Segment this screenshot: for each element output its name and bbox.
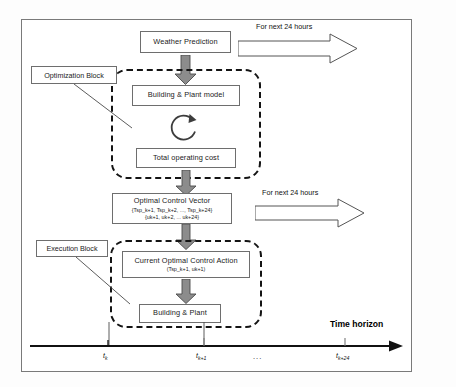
node-building-plant-model-label: Building & Plant model	[148, 91, 225, 100]
node-current-action-label: Current Optimal Control Action	[134, 257, 237, 266]
node-total-operating-cost: Total operating cost	[136, 148, 236, 168]
axis-tick-tk24-sub: k+24	[338, 355, 349, 361]
horizon-mid-label: For next 24 hours	[262, 188, 318, 197]
axis-title-time-horizon: Time horizon	[330, 319, 383, 329]
node-optimal-control-vector-setpoints: {Tsp_k+1, Tsp_k+2, ..., Tsp_k+24}	[132, 207, 213, 213]
axis-tick-label-tk1: tk+1	[196, 352, 206, 361]
node-weather-prediction: Weather Prediction	[140, 31, 231, 53]
horizon-top-label: For next 24 hours	[256, 22, 312, 31]
node-optimal-control-vector: Optimal Control Vector {Tsp_k+1, Tsp_k+2…	[112, 193, 232, 224]
node-building-plant: Building & Plant	[139, 304, 221, 323]
node-building-plant-label: Building & Plant	[153, 309, 207, 318]
axis-ellipsis: ...	[253, 352, 262, 361]
circular-iteration-arrow-icon	[167, 112, 205, 149]
axis-tick-tk-sub: k	[105, 355, 108, 361]
node-total-operating-cost-label: Total operating cost	[153, 154, 219, 163]
diagram-canvas: Weather Prediction For next 24 hours Opt…	[0, 0, 456, 387]
callout-execution-block-label: Execution Block	[46, 244, 97, 253]
callout-execution-block: Execution Block	[36, 240, 108, 257]
right-outline-arrow-mid	[255, 198, 365, 228]
node-current-action-values: (Tsp_k+1, uk+1)	[167, 266, 206, 272]
node-optimal-control-vector-label: Optimal Control Vector	[134, 197, 211, 206]
node-optimal-control-vector-inputs: {uk+1, uk+2, ... uk+24}	[145, 214, 199, 220]
right-outline-arrow-top	[238, 33, 358, 64]
node-building-plant-model: Building & Plant model	[132, 85, 240, 106]
node-current-optimal-control-action: Current Optimal Control Action (Tsp_k+1,…	[122, 251, 250, 278]
node-weather-prediction-label: Weather Prediction	[153, 38, 218, 47]
axis-tick-label-tk24: tk+24	[336, 352, 349, 361]
callout-optimization-block: Optimization Block	[31, 66, 117, 84]
axis-tick-tk1-sub: k+1	[198, 355, 207, 361]
callout-optimization-block-label: Optimization Block	[44, 71, 104, 80]
axis-tick-label-tk: tk	[103, 352, 108, 361]
down-block-arrow-action-to-plant	[175, 279, 197, 304]
